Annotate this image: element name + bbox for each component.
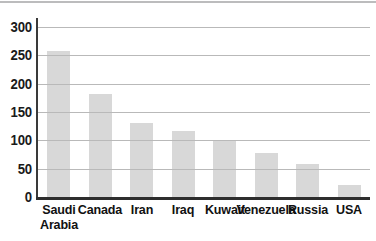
y-tick-150: 150 <box>2 105 32 119</box>
x-axis-category-labels: SaudiArabiaCanadaIranIraqKuwaitVenezuela… <box>0 202 376 241</box>
y-tick-250: 250 <box>2 48 32 62</box>
gridline-300 <box>38 27 370 28</box>
bar-iran <box>130 123 153 197</box>
bar-venezuela <box>255 153 278 197</box>
x-label-iran-line1: Iran <box>131 202 153 217</box>
y-tick-50: 50 <box>2 162 32 176</box>
bar-chart: 300 250 200 150 100 50 0 SaudiArabiaCana… <box>0 0 376 241</box>
x-axis-line <box>36 197 370 200</box>
gridline-250 <box>38 55 370 56</box>
y-tick-200: 200 <box>2 77 32 91</box>
bar-canada <box>89 94 112 197</box>
bar-saudi-arabia <box>47 51 70 197</box>
x-label-iraq-line1: Iraq <box>172 202 194 217</box>
y-tick-300: 300 <box>2 20 32 34</box>
y-axis-spine <box>36 18 38 199</box>
gridline-200 <box>38 84 370 85</box>
bar-usa <box>338 185 361 197</box>
gridline-150 <box>38 112 370 113</box>
gridline-50 <box>38 169 370 170</box>
x-label-usa: USA <box>318 202 376 217</box>
gridline-100 <box>38 140 370 141</box>
y-tick-100: 100 <box>2 133 32 147</box>
x-label-usa-line1: USA <box>336 202 362 217</box>
x-label-saudi-arabia-line2: Arabia <box>28 217 89 232</box>
